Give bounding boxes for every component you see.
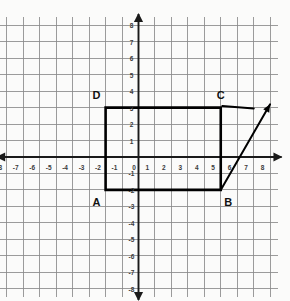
x-axis-tick-label: -8 [0, 163, 2, 170]
coordinate-plot-svg [0, 0, 290, 301]
x-axis-tick-label: 1 [146, 163, 150, 170]
y-axis-tick-label: -2 [129, 186, 135, 193]
y-axis-tick-label: 4 [130, 88, 134, 95]
vertex-label-c: C [217, 89, 225, 101]
x-axis-tick-label: -5 [46, 163, 52, 170]
x-axis-tick-label: -6 [29, 163, 35, 170]
y-axis-tick-label: 3 [130, 104, 134, 111]
y-axis-tick-label: 6 [130, 55, 134, 62]
y-axis-tick-label: -6 [129, 252, 135, 259]
x-axis-tick-label: 8 [261, 163, 265, 170]
vertex-label-a: A [93, 196, 101, 208]
horizontal-stroke-at-C [222, 106, 253, 108]
y-axis-tick-label: 8 [130, 22, 134, 29]
y-axis-tick-label: -7 [129, 269, 135, 276]
y-axis-tick-label: -8 [129, 285, 135, 292]
vertex-label-b: B [224, 196, 232, 208]
y-axis-tick-label: -5 [129, 236, 135, 243]
x-axis-tick-label: 2 [162, 163, 166, 170]
y-axis-up-arrow-icon [134, 13, 143, 22]
x-axis-tick-label: 4 [195, 163, 199, 170]
x-axis-tick-label: 7 [244, 163, 248, 170]
y-axis-tick-label: 7 [130, 38, 134, 45]
y-axis-tick-label: 5 [130, 71, 134, 78]
y-axis-tick-label: -4 [129, 219, 135, 226]
x-axis-tick-label: -7 [13, 163, 19, 170]
rectangle-ABCD [106, 108, 221, 190]
y-axis-tick-label: 2 [130, 121, 134, 128]
y-axis-down-arrow-icon [134, 292, 143, 301]
vertex-label-d: D [93, 89, 101, 101]
y-axis-tick-label: -1 [129, 170, 135, 177]
x-axis-tick-label: 3 [178, 163, 182, 170]
y-axis-tick-label: 1 [130, 137, 134, 144]
x-axis-left-arrow-icon [0, 152, 5, 161]
x-axis-tick-label: 6 [228, 163, 232, 170]
x-axis-tick-label: 5 [211, 163, 215, 170]
x-axis-tick-label: -2 [95, 163, 101, 170]
x-axis-tick-label: -3 [79, 163, 85, 170]
diagonal-arrow-from-B [221, 104, 270, 190]
y-axis-tick-label: -3 [129, 203, 135, 210]
coordinate-plane-figure: -8-7-6-5-4-3-2-1012345678-8-7-6-5-4-3-2-… [0, 0, 290, 301]
x-axis-tick-label: 0 [132, 163, 136, 170]
x-axis-tick-label: -4 [62, 163, 68, 170]
x-axis-tick-label: -1 [112, 163, 118, 170]
x-axis-right-arrow-icon [273, 152, 282, 161]
